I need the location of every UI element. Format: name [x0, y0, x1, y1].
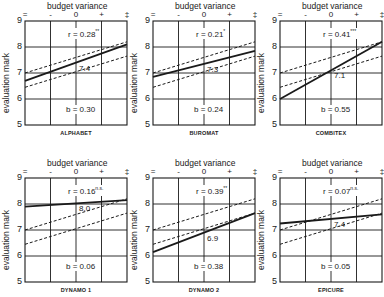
plot-area [255, 0, 383, 148]
significance-marker: n.s. [350, 185, 358, 191]
correlation-stat: r = 0.16n.s. [67, 185, 104, 196]
b-prefix: b = [194, 262, 208, 271]
chart-panel-alphabet: budget variance=-0+‡56789evaluation mark… [0, 0, 128, 148]
correlation-stat: r = 0.39** [195, 185, 228, 196]
significance-marker: ** [95, 28, 99, 34]
chart-panel-combitex: budget variance=-0+‡56789evaluation mark… [255, 0, 383, 148]
mean-label: 7.3 [207, 65, 218, 74]
mean-label: 7.4 [79, 64, 90, 73]
correlation-stat: r = 0.07n.s. [322, 185, 359, 196]
b-value: 0.55 [335, 105, 351, 114]
r-prefix: r = [68, 187, 80, 196]
chart-title: BUROMAT [189, 130, 218, 136]
b-prefix: b = [194, 105, 208, 114]
slope-stat: b = 0.06 [65, 262, 96, 271]
plot-area [128, 157, 256, 297]
chart-panel-buromat: budget variance=-0+‡56789evaluation mark… [128, 0, 256, 148]
r-value: 0.41 [335, 30, 351, 39]
r-prefix: r = [68, 30, 80, 39]
r-value: 0.16 [80, 187, 96, 196]
b-value: 0.38 [208, 262, 224, 271]
mean-label: 7.1 [334, 71, 345, 80]
chart-panel-epicure: budget variance=-0+‡56789evaluation mark… [255, 157, 383, 297]
chart-panel-dynamo-1: budget variance=-0+‡56789evaluation mark… [0, 157, 128, 297]
chart-title: ALPHABET [60, 130, 92, 136]
chart-title: DYNAMO 2 [189, 287, 220, 293]
correlation-stat: r = 0.28** [67, 28, 100, 39]
r-prefix: r = [323, 30, 335, 39]
mean-label: 6.9 [207, 234, 218, 243]
plot-area [255, 157, 383, 297]
r-prefix: r = [196, 187, 208, 196]
slope-stat: b = 0.05 [320, 262, 351, 271]
slope-stat: b = 0.30 [65, 105, 96, 114]
significance-marker: * [223, 28, 225, 34]
r-value: 0.39 [208, 187, 224, 196]
mean-label: 7.4 [334, 220, 345, 229]
r-value: 0.28 [80, 30, 96, 39]
significance-marker: n.s. [95, 185, 103, 191]
slope-stat: b = 0.55 [320, 105, 351, 114]
chart-title: EPICURE [318, 287, 344, 293]
b-prefix: b = [66, 262, 80, 271]
b-value: 0.06 [80, 262, 96, 271]
b-value: 0.05 [335, 262, 351, 271]
b-value: 0.24 [208, 105, 224, 114]
r-prefix: r = [196, 30, 208, 39]
slope-stat: b = 0.38 [193, 262, 224, 271]
plot-area [0, 157, 128, 297]
plot-area [0, 0, 128, 148]
chart-panel-dynamo-2: budget variance=-0+‡56789evaluation mark… [128, 157, 256, 297]
chart-title: DYNAMO 1 [61, 287, 92, 293]
correlation-stat: r = 0.41*** [322, 28, 357, 39]
slope-stat: b = 0.24 [193, 105, 224, 114]
chart-title: COMBITEX [316, 130, 347, 136]
significance-marker: *** [350, 28, 356, 34]
plot-area [128, 0, 256, 148]
correlation-stat: r = 0.21* [195, 28, 226, 39]
b-prefix: b = [66, 105, 80, 114]
significance-marker: ** [223, 185, 227, 191]
r-value: 0.21 [208, 30, 224, 39]
b-prefix: b = [321, 105, 335, 114]
r-value: 0.07 [335, 187, 351, 196]
r-prefix: r = [323, 187, 335, 196]
mean-label: 8.0 [79, 204, 90, 213]
b-value: 0.30 [80, 105, 96, 114]
b-prefix: b = [321, 262, 335, 271]
